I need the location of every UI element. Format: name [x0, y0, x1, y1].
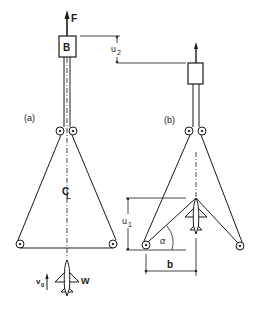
aircraft-icon [55, 260, 79, 296]
pulley-b-top-right-icon [198, 127, 206, 135]
cable-right [72, 135, 116, 240]
pulley-bottom-left-icon [16, 240, 24, 248]
angle-label: α [160, 236, 166, 246]
velocity-label-sub: 0 [41, 282, 45, 288]
pulley-b-top-left-icon [185, 127, 193, 135]
panel-b-label: (b) [164, 115, 175, 125]
aircraft-b-icon [185, 198, 207, 234]
pulley-top-left-icon [56, 127, 64, 135]
force-arrow-icon [65, 10, 70, 36]
height-label-sub: 1 [128, 221, 132, 228]
pulley-b-bottom-left-icon [142, 241, 150, 249]
force-arrow-b-icon [194, 42, 198, 63]
force-label: F [71, 13, 77, 24]
cable-left [18, 135, 61, 240]
pulley-top-right-icon [69, 127, 77, 135]
cable-b-inner-right [196, 198, 238, 243]
arresting-gear-diagram: F B (a) C L v 0 W u 2 [0, 0, 259, 312]
velocity-arrow-icon [45, 273, 48, 290]
displacement-label: u [111, 44, 116, 54]
width-label: b [167, 259, 173, 270]
height-label: u [122, 216, 127, 226]
angle-arc [167, 226, 173, 250]
displacement-u2-dimension [80, 36, 186, 63]
block-b-displaced [188, 63, 203, 84]
weight-label: W [81, 276, 90, 286]
panel-b [126, 42, 244, 276]
panel-a-label: (a) [24, 113, 35, 123]
displacement-label-sub: 2 [117, 49, 121, 56]
pulley-bottom-right-icon [109, 240, 117, 248]
block-label: B [63, 42, 70, 53]
rod-b [193, 84, 199, 127]
pulley-b-bottom-right-icon [236, 242, 244, 250]
centerline-symbol-sub: L [66, 192, 71, 201]
